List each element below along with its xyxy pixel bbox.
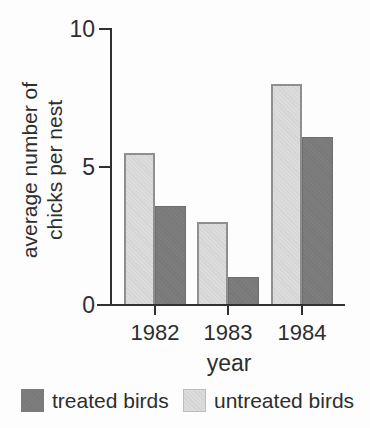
- x-tick-label-1983: 1983: [204, 322, 253, 344]
- bar-untreated-1984: [271, 84, 302, 305]
- bar-untreated-1983: [197, 222, 228, 305]
- x-tick-1984: [301, 306, 303, 315]
- y-tick-label-0: 0: [51, 294, 95, 317]
- y-tick-label-5: 5: [51, 156, 95, 179]
- bar-treated-1983: [228, 277, 259, 305]
- legend-label-treated: treated birds: [52, 390, 169, 411]
- x-tick-label-1984: 1984: [278, 322, 327, 344]
- legend-item-untreated: untreated birds: [183, 388, 354, 412]
- legend-item-treated: treated birds: [21, 388, 169, 412]
- x-tick-1983: [227, 306, 229, 315]
- y-tick-label-10: 10: [51, 18, 95, 41]
- y-tick-10: [99, 28, 110, 30]
- y-axis-line: [110, 28, 112, 306]
- x-tick-label-1982: 1982: [131, 322, 180, 344]
- x-axis-line: [97, 304, 345, 306]
- legend-label-untreated: untreated birds: [214, 390, 354, 411]
- treated-swatch-icon: [21, 389, 44, 412]
- x-tick-1982: [154, 306, 156, 315]
- x-axis-title: year: [207, 352, 252, 375]
- y-tick-5: [99, 166, 110, 168]
- bar-chart-figure: average number of chicks per nest 051019…: [0, 0, 370, 428]
- untreated-swatch-icon: [183, 389, 206, 412]
- bar-treated-1984: [302, 137, 333, 305]
- bar-treated-1982: [155, 206, 186, 305]
- y-axis-title-line1: average number of: [17, 65, 42, 275]
- bar-untreated-1982: [124, 153, 155, 305]
